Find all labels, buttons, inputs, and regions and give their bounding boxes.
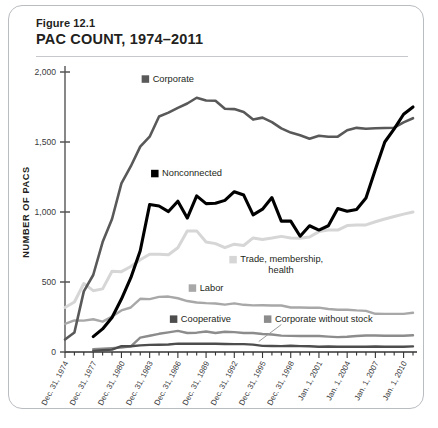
x-tick-label: Dec. 31, 1998 <box>265 360 296 407</box>
series-swatch <box>189 284 197 292</box>
x-tick-label: Dec. 31, 1974 <box>40 359 71 407</box>
series-swatch <box>229 256 237 264</box>
pac-count-line-chart: 05001,0001,5002,000NUMBER OF PACSDec. 31… <box>9 6 424 409</box>
x-tick-label: Jan. 1, 2007 <box>353 360 381 402</box>
y-tick-label: 1,000 <box>34 207 56 217</box>
series-label: Labor <box>200 283 224 293</box>
series-swatch <box>170 315 178 323</box>
y-tick-label: 0 <box>51 347 56 357</box>
series-label: Corporate without stock <box>275 314 373 324</box>
series-line <box>93 107 413 337</box>
x-tick-label: Dec. 31, 1992 <box>209 360 240 407</box>
series-line <box>93 344 413 351</box>
series-line <box>65 212 413 307</box>
x-tick-label: Dec. 31, 1983 <box>124 360 155 407</box>
y-axis-title: NUMBER OF PACS <box>21 166 31 257</box>
y-tick-label: 1,500 <box>34 137 56 147</box>
x-tick-label: Jan. 1, 2010 <box>381 359 409 402</box>
series-swatch <box>264 315 272 323</box>
x-tick-label: Jan. 1, 2004 <box>324 359 352 402</box>
y-tick-label: 2,000 <box>34 67 56 77</box>
series-label: Nonconnected <box>162 168 222 178</box>
x-tick-label: Dec. 31, 1995 <box>237 359 268 407</box>
chart-plot-area: 05001,0001,5002,000NUMBER OF PACSDec. 31… <box>9 6 424 409</box>
x-tick-label: Jan. 1, 2001 <box>296 360 324 402</box>
figure-card: Figure 12.1 PAC COUNT, 1974–2011 05001,0… <box>8 5 424 409</box>
series-label: Trade, membership, <box>240 254 323 264</box>
series-swatch <box>151 170 159 178</box>
x-tick-label: Dec. 31, 1986 <box>152 360 183 407</box>
x-tick-label: Dec. 31, 1977 <box>68 360 99 407</box>
x-tick-label: Dec. 31, 1980 <box>96 359 127 407</box>
series-swatch <box>142 75 150 83</box>
series-label-line2: health <box>268 265 293 275</box>
y-tick-label: 500 <box>42 277 57 287</box>
series-label: Cooperative <box>181 314 231 324</box>
series-label: Corporate <box>153 74 194 84</box>
x-tick-label: Dec. 31, 1989 <box>181 360 212 407</box>
